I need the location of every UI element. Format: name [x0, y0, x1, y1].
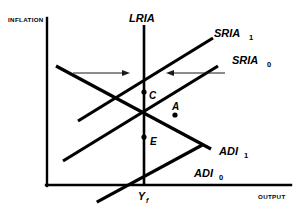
- point-label-a: A: [171, 101, 179, 112]
- x-tick-sub: f: [146, 197, 149, 204]
- curve-adi1: [56, 66, 211, 149]
- curve-label-lria: LRIA: [129, 12, 155, 24]
- curve-sria1: [78, 38, 213, 121]
- curve-label-adi0: ADI 0: [193, 167, 223, 182]
- curve-label-adi0-base: ADI: [193, 167, 214, 179]
- point-dot-c: [141, 89, 146, 94]
- curve-label-sria1: SRIA 1: [214, 27, 253, 42]
- x-tick-yf: Y f: [138, 190, 149, 204]
- curve-label-sria0: SRIA 0: [232, 54, 271, 69]
- curve-label-adi1-sub: 1: [244, 151, 248, 160]
- curve-label-sria0-base: SRIA: [232, 54, 258, 66]
- curve-label-adi1-base: ADI: [218, 145, 239, 157]
- shift-arrow-left: [166, 70, 225, 76]
- curve-label-adi0-sub: 0: [219, 173, 223, 182]
- economics-diagram: INFLATION OUTPUT Y f LRIA SRIA 1 SRIA 0 …: [0, 0, 299, 214]
- curve-adi0: [96, 145, 203, 202]
- point-dot-e: [141, 134, 146, 139]
- curve-label-sria1-sub: 1: [249, 33, 253, 42]
- curve-label-sria1-base: SRIA: [214, 27, 240, 39]
- x-tick-base: Y: [138, 190, 146, 202]
- shift-arrow-left-head: [166, 70, 174, 76]
- diagram-canvas: INFLATION OUTPUT Y f LRIA SRIA 1 SRIA 0 …: [0, 0, 299, 214]
- curve-label-lria-base: LRIA: [129, 12, 155, 24]
- shift-arrow-right-head: [122, 70, 130, 76]
- axes-group: [46, 18, 291, 186]
- point-label-e: E: [150, 136, 157, 147]
- curve-label-sria0-sub: 0: [267, 60, 271, 69]
- shift-arrow-right: [73, 70, 130, 76]
- x-axis-label: OUTPUT: [258, 193, 286, 200]
- curve-sria0: [63, 66, 218, 161]
- point-label-c: C: [149, 90, 157, 101]
- curve-label-adi1: ADI 1: [218, 145, 248, 160]
- point-dot-a: [172, 112, 177, 117]
- y-axis-label: INFLATION: [8, 16, 44, 23]
